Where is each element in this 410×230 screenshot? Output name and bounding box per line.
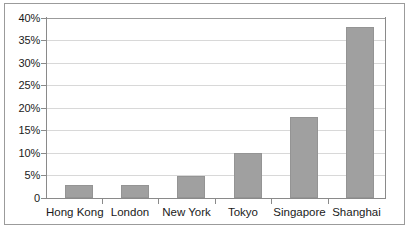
- x-axis-label-shanghai: Shanghai: [328, 206, 385, 219]
- gridline-25: [46, 85, 385, 86]
- bar-shanghai: [346, 27, 374, 198]
- bar-singapore: [290, 117, 318, 198]
- bar-london: [121, 185, 149, 199]
- gridline-20: [46, 108, 385, 109]
- right-axis-line: [385, 17, 386, 199]
- gridline-30: [46, 63, 385, 64]
- y-tick-label-5: 5%: [2, 170, 40, 181]
- x-axis-label-singapore: Singapore: [271, 206, 328, 219]
- x-tick-mark-5: [328, 199, 329, 204]
- x-axis-label-tokyo: Tokyo: [215, 206, 271, 219]
- gridline-35: [46, 40, 385, 41]
- y-tick-label-40: 40%: [2, 13, 40, 24]
- x-axis-label-london: London: [102, 206, 158, 219]
- x-tick-mark-1: [102, 199, 103, 204]
- gridline-15: [46, 130, 385, 131]
- plot-area: [46, 18, 385, 198]
- x-tick-mark-4: [271, 199, 272, 204]
- y-tick-label-25: 25%: [2, 80, 40, 91]
- gridline-40: [46, 18, 385, 19]
- gridline-5: [46, 175, 385, 176]
- bar-new-york: [177, 176, 205, 199]
- y-tick-label-20: 20%: [2, 103, 40, 114]
- y-tick-label-0: 0: [2, 193, 40, 204]
- x-tick-mark-2: [158, 199, 159, 204]
- y-axis-line: [46, 17, 47, 199]
- bar-tokyo: [234, 153, 262, 198]
- x-tick-mark-3: [215, 199, 216, 204]
- gridline-10: [46, 153, 385, 154]
- x-axis-label-hong-kong: Hong Kong: [46, 206, 102, 219]
- y-tick-label-35: 35%: [2, 35, 40, 46]
- y-tick-label-30: 30%: [2, 58, 40, 69]
- bar-hong-kong: [65, 185, 93, 199]
- y-tick-label-15: 15%: [2, 125, 40, 136]
- y-tick-label-10: 10%: [2, 148, 40, 159]
- x-axis-line: [46, 198, 386, 199]
- x-axis-label-new-york: New York: [158, 206, 215, 219]
- y-axis-tick-labels: 40% 35% 30% 25% 20% 15% 10% 5% 0: [0, 0, 40, 230]
